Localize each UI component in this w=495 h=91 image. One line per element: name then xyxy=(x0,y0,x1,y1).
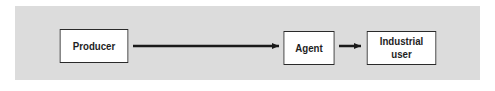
node-producer: Producer xyxy=(60,29,129,63)
node-industrial-user-label-line2: user xyxy=(391,48,411,61)
node-industrial-user-label-line1: Industrial xyxy=(380,35,424,48)
node-producer-label: Producer xyxy=(73,40,116,53)
node-agent: Agent xyxy=(283,31,334,65)
node-agent-label: Agent xyxy=(295,42,322,55)
node-industrial-user: Industrial user xyxy=(367,31,437,65)
